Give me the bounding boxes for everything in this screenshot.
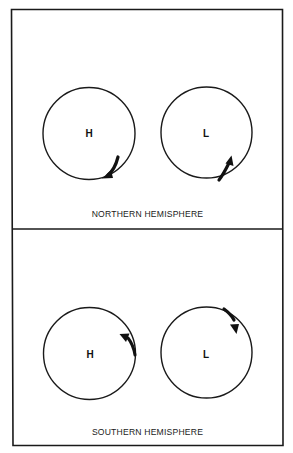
- northern-hemisphere-panel: H L NORTHERN HEMISPHERE: [43, 87, 252, 219]
- clockwise-arrow-icon: [102, 157, 118, 179]
- southern-hemisphere-caption: SOUTHERN HEMISPHERE: [92, 427, 203, 437]
- low-label: L: [203, 128, 209, 139]
- high-label: H: [86, 349, 93, 360]
- hemisphere-circulation-diagram: H L NORTHERN HEMISPHERE H: [0, 0, 293, 453]
- high-pressure-system: H: [43, 88, 135, 180]
- low-label: L: [203, 349, 209, 360]
- high-pressure-system: H: [44, 308, 136, 400]
- low-pressure-system: L: [161, 307, 252, 398]
- northern-hemisphere-caption: NORTHERN HEMISPHERE: [92, 209, 204, 219]
- clockwise-arrow-icon: [224, 309, 239, 334]
- high-label: H: [85, 128, 92, 139]
- counterclockwise-arrow-icon: [219, 156, 234, 181]
- southern-hemisphere-panel: H L SOUTHERN HEMISPHERE: [44, 307, 253, 437]
- low-pressure-system: L: [161, 87, 252, 180]
